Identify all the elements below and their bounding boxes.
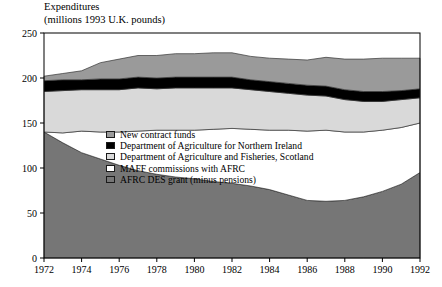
y-tick-label: 50 xyxy=(27,208,37,219)
y-tick-label: 100 xyxy=(22,163,37,174)
x-tick-label: 1982 xyxy=(222,264,242,275)
x-tick-label: 1986 xyxy=(297,264,317,275)
legend-item: New contract funds xyxy=(106,129,313,140)
legend-label: New contract funds xyxy=(120,129,195,140)
x-tick-label: 1980 xyxy=(184,264,204,275)
x-tick-label: 1974 xyxy=(72,264,92,275)
legend-item: AFRC DES grant (minus pensions) xyxy=(106,174,313,185)
x-tick-label: 1988 xyxy=(335,264,355,275)
legend-swatch xyxy=(106,176,115,183)
legend-label: MAFF commissions with AFRC xyxy=(120,163,245,174)
legend-label: Department of Agriculture for Northern I… xyxy=(120,140,302,151)
x-tick-label: 1992 xyxy=(410,264,430,275)
legend-item: Department of Agriculture and Fisheries,… xyxy=(106,151,313,162)
x-tick-label: 1976 xyxy=(109,264,129,275)
legend-item: Department of Agriculture for Northern I… xyxy=(106,140,313,151)
y-axis: 050100150200250 xyxy=(22,28,44,264)
x-tick-label: 1984 xyxy=(260,264,280,275)
legend-swatch xyxy=(106,165,115,172)
x-axis: 1972197419761978198019821984198619881990… xyxy=(34,258,430,275)
y-tick-label: 200 xyxy=(22,73,37,84)
legend-swatch xyxy=(106,153,115,160)
y-tick-label: 250 xyxy=(22,28,37,39)
y-tick-label: 150 xyxy=(22,118,37,129)
legend-label: AFRC DES grant (minus pensions) xyxy=(120,174,256,185)
chart-legend: New contract fundsDepartment of Agricult… xyxy=(106,129,313,185)
chart-figure: Expenditures (millions 1993 U.K. pounds)… xyxy=(0,0,442,287)
legend-label: Department of Agriculture and Fisheries,… xyxy=(120,151,313,162)
legend-swatch xyxy=(106,131,115,138)
x-tick-label: 1990 xyxy=(372,264,392,275)
x-tick-label: 1972 xyxy=(34,264,54,275)
x-tick-label: 1978 xyxy=(147,264,167,275)
y-tick-label: 0 xyxy=(32,253,37,264)
legend-swatch xyxy=(106,142,115,149)
legend-item: MAFF commissions with AFRC xyxy=(106,163,313,174)
